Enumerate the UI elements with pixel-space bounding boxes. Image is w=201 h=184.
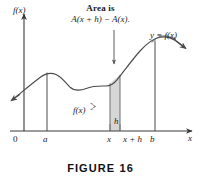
height-label-fx: f(x)	[73, 106, 86, 115]
origin-label: 0	[13, 135, 18, 144]
height-brace	[91, 104, 96, 110]
strip-width-label-h: h	[114, 117, 119, 126]
curve-right-arrow	[176, 41, 186, 49]
y-axis-label: f(x)	[13, 6, 26, 15]
area-annotation-line1: Area is	[0, 3, 201, 14]
tick-label-b: b	[150, 135, 155, 144]
function-curve	[14, 37, 182, 99]
curve-left-arrow	[11, 94, 20, 101]
area-annotation-line2: A(x + h) − A(x).	[0, 14, 201, 25]
figure-graphic	[0, 0, 201, 184]
curve-label: y = f(x)	[150, 31, 177, 40]
tick-label-a: a	[43, 135, 48, 144]
figure-16-container: Area is A(x + h) − A(x). f(x) y = f(x) x…	[0, 0, 201, 184]
area-annotation: Area is A(x + h) − A(x).	[0, 3, 201, 25]
figure-caption: FIGURE 16	[0, 162, 201, 174]
tick-label-x: x	[107, 135, 111, 144]
tick-label-x-plus-h: x + h	[123, 135, 142, 144]
x-axis-label: x	[188, 134, 192, 143]
